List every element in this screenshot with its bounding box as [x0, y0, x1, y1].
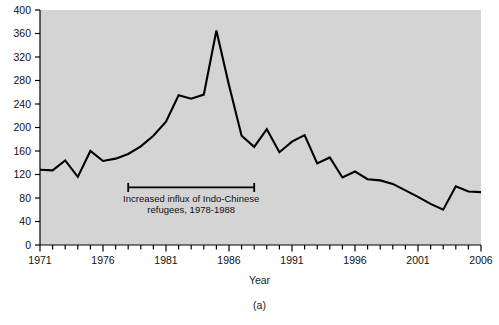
y-tick-label: 200	[13, 121, 31, 133]
x-tick-label: 1981	[154, 254, 178, 266]
y-tick-label: 360	[13, 27, 31, 39]
y-tick-label: 240	[13, 98, 31, 110]
x-tick-label: 2001	[406, 254, 430, 266]
y-tick-label: 80	[19, 192, 31, 204]
y-tick-label: 280	[13, 74, 31, 86]
x-tick-label: 1996	[343, 254, 367, 266]
figure-caption-text: (a)	[253, 299, 266, 311]
y-tick-label: 120	[13, 168, 31, 180]
x-tick-label: 2006	[469, 254, 493, 266]
plot-background	[40, 10, 481, 245]
y-axis-ticks: 04080120160200240280320360400	[13, 4, 40, 251]
y-tick-label: 160	[13, 145, 31, 157]
x-axis-ticks: 19711976198119861991199620012006	[28, 245, 493, 266]
figure-panel-a: Reported cases 0408012016020024028032036…	[0, 0, 499, 325]
y-tick-label: 320	[13, 51, 31, 63]
x-tick-label: 1991	[280, 254, 304, 266]
x-tick-label: 1976	[91, 254, 115, 266]
x-axis-title: Year	[0, 274, 499, 286]
annotation-text-line-1: Increased influx of Indo-Chinese	[123, 193, 259, 204]
annotation-text-line-2: refugees, 1978-1988	[147, 204, 235, 215]
figure-caption: (a)	[0, 299, 499, 311]
x-tick-label: 1971	[28, 254, 52, 266]
x-axis-title-text: Year	[249, 274, 270, 286]
y-tick-label: 40	[19, 215, 31, 227]
y-tick-label: 400	[13, 4, 31, 16]
x-tick-label: 1986	[217, 254, 241, 266]
y-tick-label: 0	[25, 239, 31, 251]
